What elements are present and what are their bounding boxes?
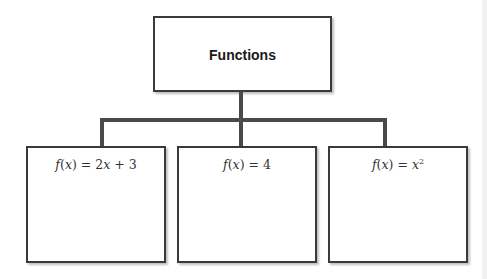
function-name: f (223, 157, 228, 172)
formula-quadratic: f(x) = x2 (330, 157, 466, 172)
page-edge-band (482, 0, 487, 279)
connector-middle-drop (239, 118, 243, 147)
root-node-functions: Functions (153, 16, 332, 92)
child-node-linear: f(x) = 2x + 3 (26, 146, 166, 263)
root-title: Functions (209, 47, 276, 63)
formula-linear: f(x) = 2x + 3 (28, 157, 164, 172)
expression-variable: x (412, 157, 419, 172)
expression-constant: + 3 (110, 157, 136, 172)
connector-right-drop (383, 118, 387, 147)
expression-constant: 4 (263, 157, 271, 172)
function-variable: x (65, 157, 72, 172)
equals-sign: = (81, 157, 91, 172)
child-node-constant: f(x) = 4 (177, 146, 317, 263)
function-variable: x (381, 157, 388, 172)
equals-sign: = (397, 157, 407, 172)
function-name: f (55, 157, 60, 172)
connector-horizontal-bar (100, 118, 387, 122)
function-name: f (372, 157, 377, 172)
exponent: 2 (419, 157, 424, 166)
function-variable: x (233, 157, 240, 172)
formula-constant: f(x) = 4 (179, 157, 315, 172)
equals-sign: = (249, 157, 259, 172)
connector-left-drop (100, 118, 104, 147)
child-node-quadratic: f(x) = x2 (328, 146, 468, 263)
